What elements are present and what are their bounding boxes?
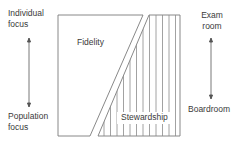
- fidelity-stewardship-diagram: [0, 0, 242, 146]
- right-double-arrow-icon: [210, 38, 213, 99]
- stewardship-label: Stewardship: [121, 112, 168, 123]
- fidelity-label: Fidelity: [77, 37, 104, 48]
- left-double-arrow-icon: [28, 38, 31, 107]
